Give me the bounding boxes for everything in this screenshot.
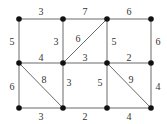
edge-b3-c4 [107,63,151,108]
node-c2 [60,105,66,111]
edges [19,19,151,108]
node-a4 [148,16,154,22]
graph-diagram: 37653566432635489324 [0,0,167,124]
edge-weight-label: 6 [127,6,132,17]
edge-b1-c2 [19,63,63,108]
edge-weight-label: 3 [67,77,72,88]
node-b1 [16,60,22,66]
edge-weight-label: 2 [127,52,132,63]
node-b3 [104,60,110,66]
edge-weight-label: 2 [83,111,88,122]
edge-weight-label: 3 [54,36,59,47]
edge-weight-label: 6 [76,33,81,44]
edge-weight-label: 9 [129,74,134,85]
edge-weight-label: 3 [39,111,44,122]
node-b2 [60,60,66,66]
node-a1 [16,16,22,22]
edge-weight-label: 3 [83,52,88,63]
node-c3 [104,105,110,111]
edge-weight-label: 6 [156,36,161,47]
edge-weight-label: 5 [10,36,15,47]
edge-weight-label: 5 [98,77,103,88]
edge-weight-label: 4 [156,81,161,92]
edge-weight-label: 5 [112,36,117,47]
edge-weight-label: 4 [39,52,44,63]
nodes [16,16,154,111]
edge-weight-label: 4 [127,111,132,122]
edge-weight-label: 8 [42,74,47,85]
node-a3 [104,16,110,22]
node-c1 [16,105,22,111]
node-a2 [60,16,66,22]
node-b4 [148,60,154,66]
node-c4 [148,105,154,111]
edge-weight-label: 6 [10,81,15,92]
edge-labels: 37653566432635489324 [10,6,161,122]
edge-weight-label: 7 [83,6,88,17]
weighted-graph: 37653566432635489324 [0,0,167,124]
edge-weight-label: 3 [39,6,44,17]
